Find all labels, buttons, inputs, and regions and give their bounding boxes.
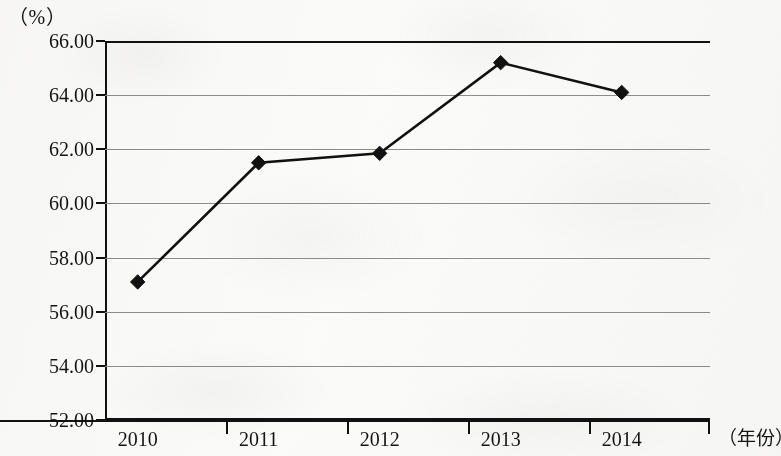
series-line	[138, 63, 622, 282]
x-axis-line	[0, 420, 710, 422]
x-axis-tick-label: 2010	[83, 429, 193, 449]
x-axis-tick-label: 2013	[446, 429, 556, 449]
x-axis-unit-label: （年份）	[718, 429, 781, 448]
data-series-layer	[0, 0, 781, 456]
x-axis-tick-label: 2012	[325, 429, 435, 449]
x-axis-tick-label: 2014	[567, 429, 677, 449]
line-chart: （%） 66.0064.0062.0060.0058.0056.0054.005…	[0, 0, 781, 456]
x-axis-tick-label: 2011	[204, 429, 314, 449]
data-point-marker	[614, 85, 628, 99]
x-axis-right-cap	[708, 420, 710, 434]
